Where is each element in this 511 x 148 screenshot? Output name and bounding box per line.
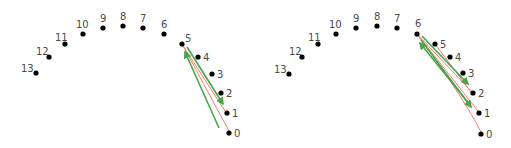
node-dot bbox=[80, 31, 85, 36]
node-label: 11 bbox=[308, 32, 321, 43]
node-dot bbox=[478, 131, 483, 136]
node-dot bbox=[447, 54, 452, 59]
node-label: 2 bbox=[226, 88, 232, 99]
node-label: 1 bbox=[484, 108, 490, 119]
node-dot bbox=[374, 23, 379, 28]
node-label: 3 bbox=[468, 68, 474, 79]
node-dot bbox=[333, 31, 338, 36]
node-dot bbox=[224, 110, 229, 115]
node-label: 6 bbox=[415, 18, 421, 29]
node-dot bbox=[476, 110, 481, 115]
diagram-canvas: 012345678910111213 012345678910111213 bbox=[0, 0, 511, 148]
node-label: 4 bbox=[203, 52, 209, 63]
node-dot bbox=[120, 23, 125, 28]
node-label: 1 bbox=[232, 108, 238, 119]
node-label: 10 bbox=[76, 19, 89, 30]
node-dot bbox=[179, 41, 184, 46]
node-label: 8 bbox=[120, 11, 126, 22]
node-label: 11 bbox=[55, 32, 68, 43]
node-label: 3 bbox=[217, 69, 223, 80]
clock-arc-diagram: 012345678910111213 012345678910111213 bbox=[0, 0, 511, 148]
panel-left: 012345678910111213 bbox=[21, 11, 240, 139]
node-label: 0 bbox=[486, 129, 492, 140]
node-dot bbox=[195, 54, 200, 59]
node-dot bbox=[218, 90, 223, 95]
node-label: 9 bbox=[353, 13, 359, 24]
node-dot bbox=[460, 70, 465, 75]
node-label: 12 bbox=[289, 46, 302, 57]
node-dot bbox=[226, 130, 231, 135]
node-dot bbox=[33, 70, 38, 75]
node-dot bbox=[394, 25, 399, 30]
node-dot bbox=[432, 41, 437, 46]
node-label: 7 bbox=[394, 13, 400, 24]
node-label: 6 bbox=[161, 19, 167, 30]
node-label: 12 bbox=[36, 46, 49, 57]
node-label: 4 bbox=[455, 52, 461, 63]
node-dot bbox=[161, 31, 166, 36]
node-dot bbox=[100, 25, 105, 30]
node-label: 5 bbox=[440, 39, 446, 50]
node-label: 7 bbox=[140, 13, 146, 24]
node-label: 9 bbox=[100, 13, 106, 24]
node-dot bbox=[470, 90, 475, 95]
node-label: 5 bbox=[185, 33, 191, 44]
panel-right: 012345678910111213 bbox=[274, 11, 492, 140]
node-dot bbox=[353, 25, 358, 30]
node-dot bbox=[414, 31, 419, 36]
node-label: 13 bbox=[21, 63, 34, 74]
node-label: 8 bbox=[374, 11, 380, 22]
node-label: 2 bbox=[478, 88, 484, 99]
node-label: 0 bbox=[234, 128, 240, 139]
node-dot bbox=[140, 25, 145, 30]
node-dot bbox=[209, 71, 214, 76]
node-label: 13 bbox=[274, 64, 287, 75]
node-dot bbox=[286, 71, 291, 76]
node-label: 10 bbox=[329, 19, 342, 30]
